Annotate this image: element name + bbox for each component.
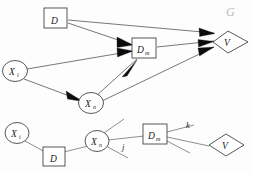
arrowhead-Xn-to-Dm bbox=[122, 60, 137, 77]
node-D2-label: D bbox=[49, 154, 57, 164]
node-V[interactable]: V bbox=[213, 31, 248, 53]
node-D[interactable]: D bbox=[44, 8, 67, 28]
node-Xi-label: X bbox=[8, 67, 16, 77]
node-Xn-shape bbox=[79, 93, 104, 114]
node-Xn[interactable]: X n bbox=[79, 93, 104, 114]
node-Xn-subscript: n bbox=[93, 104, 96, 110]
arrowhead-D-to-V bbox=[199, 28, 215, 37]
node-Dm[interactable]: D m bbox=[132, 38, 156, 58]
node-Xi2-label: X bbox=[10, 129, 18, 139]
dangling-edge-Xn2-down bbox=[106, 146, 128, 158]
diagram-svg: D D m X i X n V bbox=[0, 0, 253, 174]
node-Dm2-shape bbox=[143, 124, 167, 144]
node-Dm2[interactable]: D m bbox=[143, 124, 167, 144]
dangling-edge-Dm2-up bbox=[167, 125, 194, 132]
node-Xn-label: X bbox=[84, 99, 92, 109]
node-Xi2[interactable]: X i bbox=[5, 123, 29, 144]
node-Xn2-subscript: n bbox=[99, 142, 102, 148]
edge-D2-to-Xn2 bbox=[64, 146, 88, 152]
lower-graph-nodes: X i D X n D m V bbox=[5, 123, 244, 167]
dangling-edge-Dm2-down bbox=[167, 141, 190, 153]
node-Dm2-subscript: m bbox=[156, 136, 161, 142]
upper-graph-nodes: D D m X i X n V bbox=[3, 8, 249, 114]
arrowhead-D-to-Dm bbox=[117, 37, 133, 48]
arrowhead-Xn-to-V bbox=[198, 47, 214, 56]
edge-D-to-V bbox=[68, 20, 214, 33]
edge-Xn-to-Dm bbox=[96, 59, 137, 96]
graph-name-label: G bbox=[226, 5, 235, 19]
node-Xi2-shape bbox=[5, 123, 29, 144]
node-Dm2-label: D bbox=[147, 131, 155, 141]
node-Xn2-label: X bbox=[90, 137, 98, 147]
node-Xi-shape bbox=[3, 61, 28, 82]
arrowhead-Dm-to-V bbox=[198, 40, 214, 48]
figure-canvas: D D m X i X n V bbox=[0, 0, 253, 174]
node-Dm-label: D bbox=[136, 45, 144, 55]
dangling-edge-Xn2-up bbox=[104, 119, 124, 133]
node-Dm-shape bbox=[132, 38, 156, 58]
node-Xn2-shape bbox=[85, 131, 109, 152]
node-Xn2[interactable]: X n bbox=[85, 131, 109, 152]
edge-label-k: k bbox=[186, 120, 190, 130]
node-Dm-subscript: m bbox=[145, 50, 150, 56]
node-Xi[interactable]: X i bbox=[3, 61, 28, 82]
node-D-label: D bbox=[50, 16, 58, 26]
node-D2[interactable]: D bbox=[43, 147, 65, 166]
upper-graph-edges bbox=[24, 20, 215, 102]
arrowhead-Xi-to-Dm bbox=[117, 48, 133, 57]
node-V-shape bbox=[213, 31, 248, 53]
edge-Xn2-to-Dm2 bbox=[108, 136, 144, 140]
edge-Xi-to-Dm bbox=[27, 51, 133, 69]
node-V2[interactable]: V bbox=[209, 134, 244, 156]
edge-label-j: j bbox=[121, 142, 125, 152]
